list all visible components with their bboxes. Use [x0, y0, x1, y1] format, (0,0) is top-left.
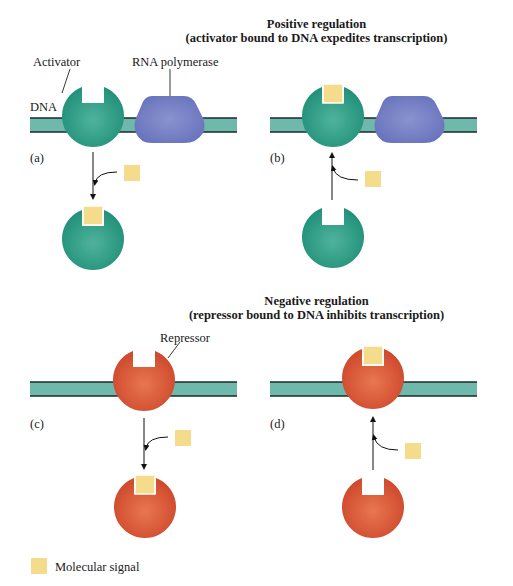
molecular-signal-icon	[363, 346, 383, 365]
activator-protein-icon	[302, 208, 364, 268]
gene-regulation-diagram	[0, 0, 513, 586]
rna-polymerase-icon	[375, 96, 445, 143]
panel-b	[270, 84, 477, 268]
repressor-protein-icon	[342, 478, 404, 538]
panel-label-b: (b)	[270, 151, 285, 165]
panel-a	[30, 69, 237, 270]
molecular-signal-icon	[365, 171, 381, 187]
arrow-down-icon	[93, 152, 117, 197]
panel-label-d: (d)	[270, 417, 285, 431]
molecular-signal-icon	[175, 430, 191, 446]
panel-d	[270, 346, 477, 538]
activator-protein-icon	[62, 87, 124, 147]
dna-label: DNA	[30, 100, 57, 114]
molecular-signal-icon	[323, 84, 343, 103]
dna-strand	[30, 118, 237, 132]
repressor-protein-icon	[113, 351, 175, 411]
arrow-up-icon	[332, 155, 358, 200]
panel-label-a: (a)	[30, 151, 44, 165]
panel-c	[30, 342, 237, 538]
molecular-signal-icon	[405, 443, 421, 459]
arrow-up-icon	[373, 419, 398, 470]
molecular-signal-icon	[83, 206, 103, 225]
panel-label-c: (c)	[30, 417, 44, 431]
molecular-signal-icon	[124, 165, 140, 181]
activator-leader-line	[62, 69, 70, 93]
repressor-label: Repressor	[160, 331, 210, 345]
rna-polymerase-label: RNA polymerase	[132, 55, 218, 69]
molecular-signal-icon	[135, 475, 155, 494]
legend-molecular-signal-label: Molecular signal	[55, 560, 139, 574]
legend-molecular-signal-swatch	[31, 558, 47, 574]
arrow-down-icon	[144, 418, 168, 467]
rna-polymerase-icon	[135, 96, 205, 143]
dna-strand	[270, 118, 477, 132]
activator-label: Activator	[33, 55, 80, 69]
